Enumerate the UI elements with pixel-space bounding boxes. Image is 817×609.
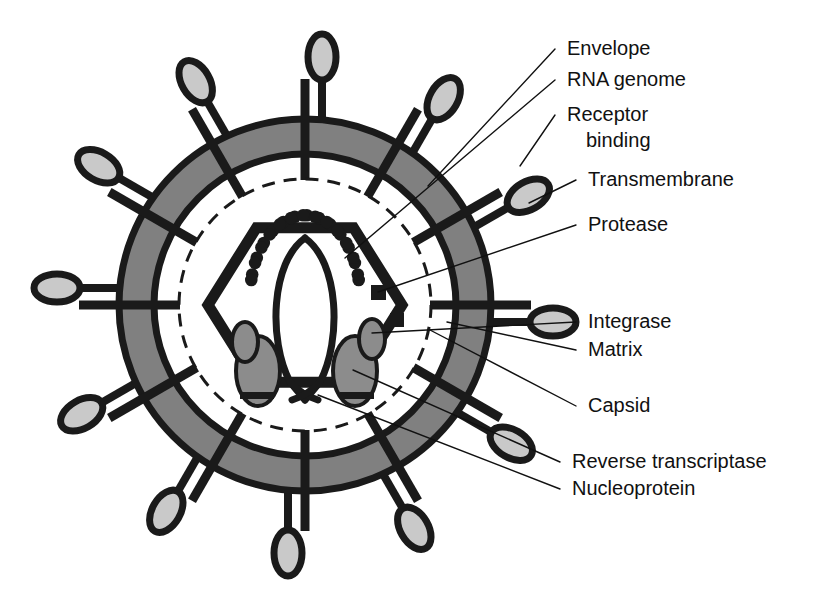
label-receptor-binding-2: binding (586, 129, 651, 151)
nucleoprotein-dot (274, 218, 287, 231)
figure-root: EnvelopeRNA genomeReceptorbindingTransme… (0, 0, 817, 609)
integrase-right (359, 319, 385, 359)
label-nucleoprotein: Nucleoprotein (572, 477, 695, 499)
nucleoprotein-dot (340, 237, 353, 250)
label-integrase: Integrase (588, 310, 671, 332)
label-transmembrane: Transmembrane (588, 168, 734, 190)
nucleoprotein-dot (249, 257, 262, 270)
hiv-virion-diagram: EnvelopeRNA genomeReceptorbindingTransme… (0, 0, 817, 609)
label-rna-genome: RNA genome (567, 68, 686, 90)
nucleoprotein-dot (320, 216, 333, 229)
label-reverse-transcriptase: Reverse transcriptase (572, 450, 767, 472)
nucleoprotein-dot (285, 212, 298, 225)
envelope-inner-circle (154, 154, 456, 456)
label-matrix: Matrix (588, 338, 642, 360)
label-protease: Protease (588, 213, 668, 235)
nucleoprotein-dot (352, 268, 365, 281)
nucleoprotein-dot (255, 241, 268, 254)
label-envelope: Envelope (567, 37, 650, 59)
core-bar-left (240, 392, 274, 399)
receptor-binding-knob-10 (34, 274, 80, 302)
nucleoprotein-dot (245, 274, 258, 287)
core-bar-right (340, 392, 374, 399)
receptor-binding-knob-1 (308, 34, 336, 80)
nucleoprotein-dot (347, 251, 360, 264)
nucleoprotein-dot (309, 210, 322, 223)
label-capsid: Capsid (588, 394, 650, 416)
protease-lower (390, 313, 404, 327)
receptor-binding-knob-7 (274, 530, 302, 576)
label-receptor-binding-1: Receptor (567, 103, 648, 125)
integrase-left (232, 322, 258, 362)
nucleoprotein-dot (297, 209, 310, 222)
nucleoprotein-dot (331, 225, 344, 238)
nucleoprotein-dot (263, 228, 276, 241)
